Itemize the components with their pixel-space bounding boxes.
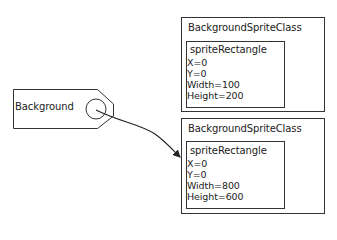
box-1-prop-y: Y=0	[187, 69, 207, 80]
tag-label: Background	[15, 101, 74, 112]
reference-arrow	[96, 110, 180, 157]
box-1-title: BackgroundSpriteClass	[188, 22, 302, 33]
box-2-prop-x: X=0	[187, 159, 207, 170]
box-1-inner-title: spriteRectangle	[190, 44, 267, 55]
box-2-prop-height: Height=600	[187, 192, 244, 203]
box-1-prop-height: Height=200	[187, 91, 244, 102]
box-2-prop-width: Width=800	[187, 181, 240, 192]
box-1-prop-width: Width=100	[187, 80, 240, 91]
reference-circle-icon	[86, 99, 106, 119]
box-2-inner-title: spriteRectangle	[190, 145, 267, 156]
box-2-prop-y: Y=0	[187, 170, 207, 181]
box-1-prop-x: X=0	[187, 58, 207, 69]
box-2-title: BackgroundSpriteClass	[188, 123, 302, 134]
